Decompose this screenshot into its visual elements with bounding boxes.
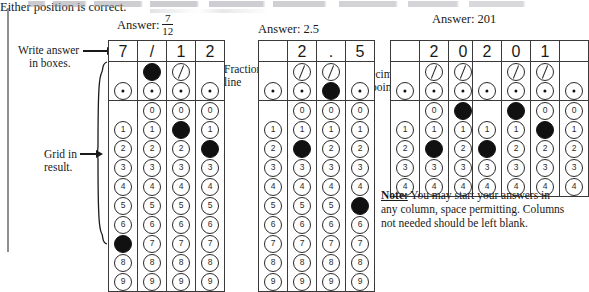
bubble-row[interactable]	[502, 81, 530, 101]
digit-bubble-2[interactable]: 2	[536, 140, 554, 158]
bubble-row[interactable]: 2	[288, 139, 316, 158]
grid-column[interactable]: /0123456789	[138, 41, 167, 291]
digit-bubble-5[interactable]: 5	[201, 197, 219, 215]
digit-bubble-1[interactable]: 1	[201, 121, 219, 139]
digit-bubble-3[interactable]: 3	[114, 159, 132, 177]
bubble-row[interactable]	[167, 62, 195, 81]
digit-bubble-4[interactable]: 4	[565, 178, 583, 196]
fraction-slash-bubble[interactable]	[454, 63, 472, 81]
bubble-row[interactable]	[317, 62, 345, 81]
bubble-row[interactable]: 9	[346, 272, 374, 291]
digit-bubble-0[interactable]: 0	[293, 102, 311, 120]
digit-bubble-3[interactable]: 3	[396, 159, 414, 177]
decimal-point-bubble[interactable]	[264, 82, 282, 100]
bubble-row[interactable]: 1	[531, 120, 559, 139]
bubble-row[interactable]: 1	[317, 120, 345, 139]
digit-bubble-8[interactable]: 8	[201, 254, 219, 272]
bubble-row[interactable]: 5	[138, 196, 166, 215]
grid-column[interactable]: 7123456789	[109, 41, 138, 291]
bubble-row[interactable]	[391, 101, 419, 120]
bubble-row[interactable]: 4	[109, 177, 137, 196]
fraction-slash-bubble[interactable]	[172, 63, 190, 81]
bubble-row[interactable]: 8	[317, 253, 345, 272]
written-answer-cell[interactable]	[259, 41, 287, 62]
digit-bubble-7[interactable]: 7	[293, 235, 311, 253]
bubble-row[interactable]: 2	[346, 139, 374, 158]
grid-column[interactable]: 10123456789	[167, 41, 196, 291]
bubble-row[interactable]	[502, 62, 530, 81]
digit-bubble-9[interactable]: 9	[201, 273, 219, 291]
bubble-row[interactable]	[531, 62, 559, 81]
bubble-row[interactable]: 8	[259, 253, 287, 272]
grid-column[interactable]: 20123456789	[196, 41, 224, 291]
digit-bubble-6[interactable]: 6	[322, 216, 340, 234]
digit-bubble-6[interactable]: 6	[293, 216, 311, 234]
bubble-row[interactable]: 3	[531, 158, 559, 177]
grid-column[interactable]: 01234	[560, 41, 588, 196]
bubble-row[interactable]	[560, 81, 588, 101]
digit-bubble-7[interactable]: 7	[172, 235, 190, 253]
fraction-slash-bubble[interactable]	[536, 63, 554, 81]
bubble-row[interactable]	[167, 81, 195, 101]
digit-bubble-4[interactable]: 4	[172, 178, 190, 196]
bubble-row[interactable]: 9	[196, 272, 224, 291]
bubble-row[interactable]: 7	[196, 234, 224, 253]
digit-bubble-2[interactable]: 2	[264, 140, 282, 158]
bubble-row[interactable]: 5	[317, 196, 345, 215]
digit-bubble-2[interactable]: 2	[172, 140, 190, 158]
digit-bubble-8[interactable]: 8	[351, 254, 369, 272]
bubble-row[interactable]	[420, 62, 448, 81]
bubble-row[interactable]: 9	[259, 272, 287, 291]
decimal-point-bubble[interactable]	[201, 82, 219, 100]
digit-bubble-4[interactable]: 4	[264, 178, 282, 196]
digit-bubble-2[interactable]: 2	[425, 140, 443, 158]
grid-column[interactable]: 1234	[391, 41, 420, 196]
bubble-row[interactable]: 5	[346, 196, 374, 215]
bubble-row[interactable]: 0	[138, 101, 166, 120]
written-answer-cell[interactable]: /	[138, 41, 166, 62]
digit-bubble-1[interactable]: 1	[536, 121, 554, 139]
bubble-row[interactable]: 1	[473, 120, 501, 139]
bubble-row[interactable]: 6	[346, 215, 374, 234]
bubble-row[interactable]: 2	[317, 139, 345, 158]
answer-grid-decimal[interactable]: 12345678920123456789.0123456789501234567…	[258, 40, 375, 292]
bubble-row[interactable]: 3	[502, 158, 530, 177]
digit-bubble-6[interactable]: 6	[201, 216, 219, 234]
bubble-row[interactable]: 0	[196, 101, 224, 120]
digit-bubble-1[interactable]: 1	[351, 121, 369, 139]
digit-bubble-3[interactable]: 3	[293, 159, 311, 177]
digit-bubble-2[interactable]: 2	[114, 140, 132, 158]
bubble-row[interactable]: 1	[259, 120, 287, 139]
bubble-row[interactable]: 7	[317, 234, 345, 253]
digit-bubble-3[interactable]: 3	[478, 159, 496, 177]
bubble-row[interactable]	[138, 81, 166, 101]
bubble-row[interactable]: 8	[196, 253, 224, 272]
digit-bubble-3[interactable]: 3	[454, 159, 472, 177]
fraction-slash-bubble[interactable]	[425, 63, 443, 81]
written-answer-cell[interactable]: 0	[502, 41, 530, 62]
bubble-row[interactable]: 6	[138, 215, 166, 234]
fraction-slash-bubble[interactable]	[322, 63, 340, 81]
digit-bubble-8[interactable]: 8	[143, 254, 161, 272]
digit-bubble-4[interactable]: 4	[322, 178, 340, 196]
digit-bubble-9[interactable]: 9	[114, 273, 132, 291]
bubble-row[interactable]: 1	[346, 120, 374, 139]
digit-bubble-1[interactable]: 1	[143, 121, 161, 139]
bubble-row[interactable]: 7	[167, 234, 195, 253]
digit-bubble-0[interactable]: 0	[201, 102, 219, 120]
bubble-row[interactable]: 8	[167, 253, 195, 272]
bubble-row[interactable]: 0	[317, 101, 345, 120]
bubble-row[interactable]: 3	[196, 158, 224, 177]
bubble-row[interactable]: 2	[167, 139, 195, 158]
grid-column[interactable]: 001234	[502, 41, 531, 196]
bubble-row[interactable]	[346, 62, 374, 81]
bubble-row[interactable]: 8	[288, 253, 316, 272]
bubble-row[interactable]: 3	[420, 158, 448, 177]
bubble-row[interactable]: 0	[420, 101, 448, 120]
decimal-point-bubble[interactable]	[322, 82, 340, 100]
decimal-point-bubble[interactable]	[351, 82, 369, 100]
bubble-row[interactable]: 8	[138, 253, 166, 272]
digit-bubble-1[interactable]: 1	[293, 121, 311, 139]
digit-bubble-6[interactable]: 6	[351, 216, 369, 234]
bubble-row[interactable]: 3	[317, 158, 345, 177]
